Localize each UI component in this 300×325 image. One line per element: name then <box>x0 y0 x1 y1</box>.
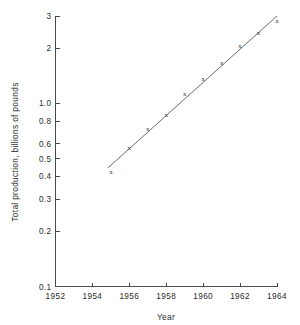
data-point-marker: x <box>183 90 187 98</box>
y-tick-label: 1.0 <box>39 99 52 108</box>
data-point-marker: x <box>220 59 224 67</box>
y-tick-label: 3 <box>47 12 52 21</box>
data-point-marker: x <box>201 75 205 83</box>
y-tick-label: 0.4 <box>39 172 52 181</box>
x-tick-label: 1952 <box>46 292 66 301</box>
x-tick-label: 1964 <box>267 292 287 301</box>
x-tick-label: 1960 <box>193 292 213 301</box>
chart-figure: 0.10.20.30.40.50.60.81.023 1952195419561… <box>0 0 300 325</box>
data-point-marker: x <box>128 144 132 152</box>
y-tick-label: 0.5 <box>39 155 52 164</box>
x-tick-label: 1962 <box>230 292 250 301</box>
trend-line <box>108 16 277 168</box>
y-tick-label: 0.6 <box>39 140 52 149</box>
y-tick-label: 0.2 <box>39 227 52 236</box>
x-tick-group: 1952195419561958196019621964 <box>46 283 287 301</box>
y-tick-label: 2 <box>47 44 52 53</box>
y-tick-label: 0.3 <box>39 195 52 204</box>
y-tick-label: 0.8 <box>39 117 52 126</box>
x-axis-title: Year <box>157 312 175 322</box>
data-point-marker: x <box>275 17 279 25</box>
x-tick-label: 1954 <box>83 292 103 301</box>
y-tick-label: 0.1 <box>39 283 52 292</box>
fit-line-group <box>108 16 277 168</box>
data-marker-group: xxxxxxxxxx <box>109 17 279 176</box>
y-axis-title: Total production, billions of pounds <box>10 82 20 221</box>
data-point-marker: x <box>109 168 113 176</box>
data-point-marker: x <box>165 111 169 119</box>
data-point-marker: x <box>257 29 261 37</box>
data-point-marker: x <box>146 125 150 133</box>
x-tick-label: 1956 <box>119 292 139 301</box>
x-tick-label: 1958 <box>156 292 176 301</box>
y-tick-group: 0.10.20.30.40.50.60.81.023 <box>39 12 60 292</box>
semilog-scatter-plot: 0.10.20.30.40.50.60.81.023 1952195419561… <box>0 0 300 325</box>
data-point-marker: x <box>238 42 242 50</box>
